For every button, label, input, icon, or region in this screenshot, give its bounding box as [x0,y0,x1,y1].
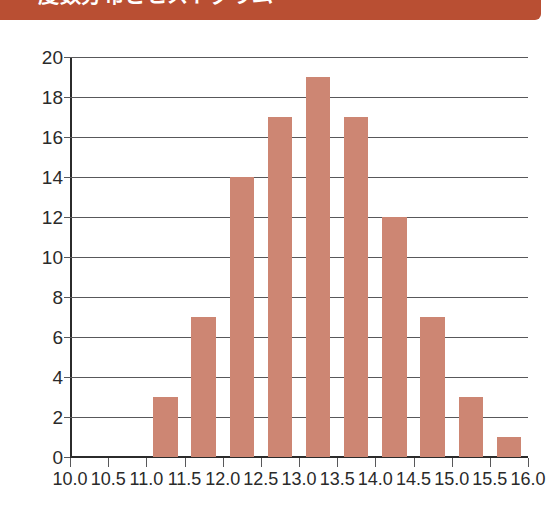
x-axis-tick-mark [528,458,529,467]
gridline [70,297,528,298]
x-axis-tick-label: 13.5 [320,470,355,488]
page-title: 度数分布とヒストグラム [38,0,274,8]
x-axis-tick-mark [414,458,415,467]
histogram-bar [191,317,215,457]
x-axis-tick-label: 15.0 [434,470,469,488]
x-axis-tick-label: 11.5 [168,470,202,488]
histogram-chart: 02468101214161820 10.010.511.011.512.012… [0,20,552,521]
x-axis-tick-mark [375,458,376,467]
plot-area [70,57,528,457]
x-axis-tick-mark [70,458,71,467]
gridline [70,257,528,258]
histogram-bar [268,117,292,457]
gridline [70,57,528,58]
histogram-bar [306,77,330,457]
gridline [70,97,528,98]
histogram-bar [230,177,254,457]
x-axis-tick-label: 16.0 [510,470,545,488]
histogram-bar [497,437,521,457]
title-banner: 度数分布とヒストグラム [0,0,541,20]
histogram-bar [382,217,406,457]
x-axis-tick-mark [108,458,109,467]
gridline [70,137,528,138]
x-axis-tick-mark [299,458,300,467]
gridline [70,337,528,338]
x-axis-tick-mark [337,458,338,467]
histogram-bar [344,117,368,457]
x-axis-tick-label: 10.0 [52,470,87,488]
x-axis-label-group: 10.010.511.011.512.012.513.013.514.014.5… [70,470,528,498]
y-axis-tick-group [0,57,71,457]
x-axis-tick-label: 14.0 [358,470,393,488]
x-axis-tick-mark [490,458,491,467]
x-axis-tick-label: 15.5 [472,470,507,488]
x-axis-tick-label: 12.5 [243,470,278,488]
histogram-bar [459,397,483,457]
x-axis-tick-mark [185,458,186,467]
histogram-bar [420,317,444,457]
x-axis-tick-label: 11.0 [129,470,163,488]
x-axis-tick-label: 13.0 [281,470,316,488]
x-axis-tick-label: 12.0 [205,470,240,488]
x-axis-tick-group [70,458,528,468]
x-axis-tick-mark [452,458,453,467]
gridline [70,177,528,178]
gridline [70,217,528,218]
x-axis-tick-label: 14.5 [396,470,431,488]
gridline [70,377,528,378]
x-axis-tick-mark [261,458,262,467]
histogram-bar [153,397,177,457]
x-axis-tick-label: 10.5 [91,470,126,488]
x-axis-tick-mark [146,458,147,467]
x-axis-tick-mark [223,458,224,467]
